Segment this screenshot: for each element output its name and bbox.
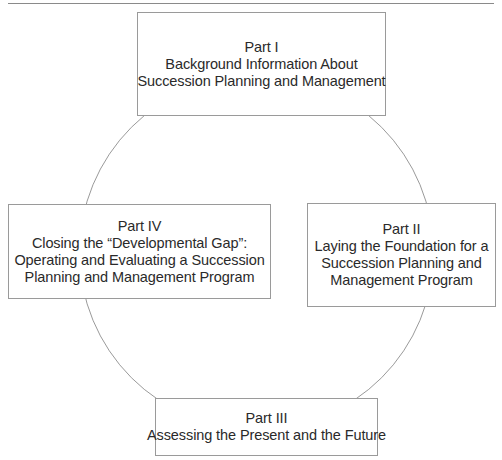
part-1-title: Part I (244, 39, 278, 56)
part-4-line-2: Operating and Evaluating a Succession (14, 252, 264, 269)
part-4-title: Part IV (118, 218, 162, 235)
part-3-title: Part III (246, 410, 288, 427)
part-4-box: Part IV Closing the “Developmental Gap”:… (8, 204, 271, 299)
part-3-box: Part III Assessing the Present and the F… (155, 398, 378, 456)
part-1-line-2: Succession Planning and Management (137, 73, 385, 90)
part-1-box: Part I Background Information About Succ… (137, 12, 386, 116)
part-1-line-1: Background Information About (165, 56, 357, 73)
part-2-line-3: Management Program (330, 272, 472, 289)
part-2-line-2: Succession Planning and (321, 255, 482, 272)
part-2-box: Part II Laying the Foundation for a Succ… (307, 203, 496, 307)
part-4-line-3: Planning and Management Program (25, 269, 255, 286)
part-4-line-1: Closing the “Developmental Gap”: (32, 235, 247, 252)
part-2-title: Part II (383, 221, 421, 238)
part-2-line-1: Laying the Foundation for a (315, 238, 489, 255)
part-3-line-1: Assessing the Present and the Future (147, 427, 386, 444)
